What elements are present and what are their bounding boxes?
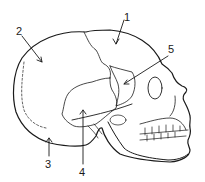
skull-drawing [0,0,205,182]
temporal-bone-outline [62,78,117,127]
skull-diagram: 1 2 3 4 5 [0,0,205,182]
label-2: 2 [16,26,22,37]
arrow-2-head [37,57,42,62]
sphenoid-outline [110,66,135,106]
label-3: 3 [45,159,51,170]
orbit [148,77,162,99]
upper-teeth [140,125,188,135]
label-1: 1 [124,12,130,23]
maxilla-outline [140,118,186,130]
arrow-2 [22,36,42,62]
nasal-opening [170,96,175,116]
label-4: 4 [79,167,85,178]
label-5: 5 [168,44,174,55]
arrow-1-head [113,39,119,44]
lambdoid-suture [22,62,46,128]
coronal-suture [84,32,111,78]
styloid-cluster [110,115,126,125]
cranium-outline [14,30,191,162]
arrow-5 [124,56,168,84]
